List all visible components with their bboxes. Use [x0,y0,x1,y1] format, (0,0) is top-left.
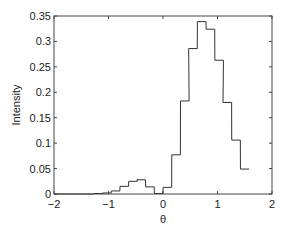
plot-frame [54,16,272,194]
x-tick-label: 2 [269,198,275,210]
y-tick-label: 0.2 [36,86,51,98]
x-axis-ticks: −2−1012 [48,16,275,210]
x-tick-label: −2 [48,198,61,210]
x-tick-label: 0 [160,198,166,210]
histogram-chart: 00.050.10.150.20.250.30.35 −2−1012 θ Int… [0,0,288,231]
y-tick-label: 0.35 [30,10,51,22]
histogram-stairs [54,22,249,194]
y-tick-label: 0.25 [30,61,51,73]
x-axis-label: θ [160,213,166,225]
y-axis-ticks: 00.050.10.150.20.250.30.35 [30,10,272,200]
x-tick-label: −1 [102,198,115,210]
x-tick-label: 1 [214,198,220,210]
y-tick-label: 0.1 [36,137,51,149]
y-tick-label: 0.15 [30,112,51,124]
y-tick-label: 0.05 [30,163,51,175]
y-axis-label: Intensity [10,84,22,125]
y-tick-label: 0.3 [36,35,51,47]
